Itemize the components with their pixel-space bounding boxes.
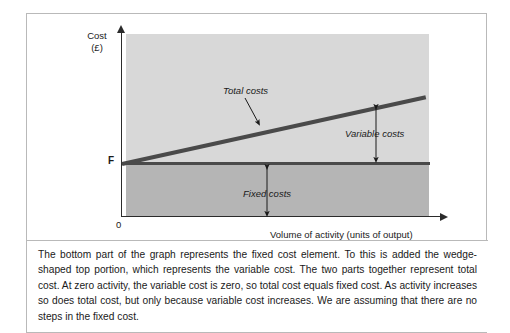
x-axis-line (121, 216, 441, 217)
variable-costs-annotation-label: Variable costs (345, 128, 404, 139)
figure-caption: The bottom part of the graph represents … (27, 240, 488, 332)
cost-behaviour-chart: Cost (£) F 0 Volume of activity (units o… (27, 14, 488, 239)
fixed-costs-line (122, 162, 430, 166)
x-axis-arrow-icon (440, 213, 448, 221)
y-axis-line (121, 31, 122, 217)
y-axis-label: Cost (£) (74, 30, 120, 54)
y-axis-label-units: (£) (74, 42, 120, 54)
y-axis-label-text: Cost (74, 30, 120, 42)
variable-cost-region (126, 34, 429, 163)
origin-label: 0 (116, 219, 121, 230)
x-axis-label: Volume of activity (units of output) (270, 229, 413, 240)
fixed-costs-annotation-label: Fixed costs (243, 188, 291, 199)
figure-frame: Cost (£) F 0 Volume of activity (units o… (26, 13, 487, 333)
total-costs-annotation-label: Total costs (223, 85, 268, 96)
y-intercept-label: F (108, 155, 114, 166)
